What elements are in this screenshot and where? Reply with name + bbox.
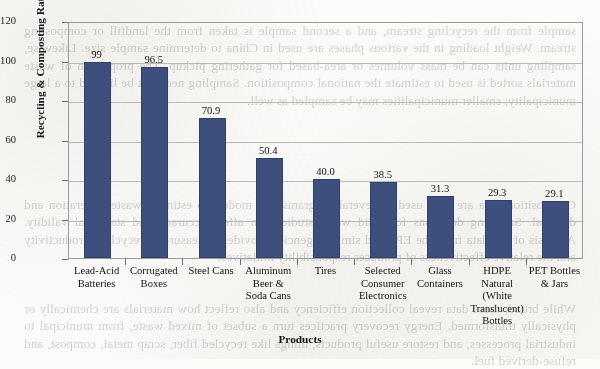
y-axis-tick-label: 80 (0, 94, 16, 105)
bar-value-label: 31.3 (413, 183, 467, 194)
y-axis-tick-mark (62, 22, 68, 23)
x-axis-category-label-line: Soda Cans (229, 290, 307, 303)
x-axis-category-label-line: PET Bottles (515, 265, 593, 278)
x-axis-category-label-line: Beer & (229, 278, 307, 291)
y-axis-tick-mark (62, 62, 68, 63)
x-axis-category-label-line: Electronics (344, 290, 422, 303)
y-axis-title: Recycling & Composting Rate (Percent) (34, 0, 46, 168)
bar (542, 201, 569, 258)
x-axis-category-label: PET Bottles& Jars (515, 265, 593, 290)
y-axis-tick-mark (62, 259, 68, 260)
y-axis-tick-label: 100 (0, 55, 16, 66)
y-axis-tick-mark (62, 141, 68, 142)
x-axis-category-label-line: & Jars (515, 278, 593, 291)
x-axis-category-label-line: (White (458, 290, 536, 303)
x-axis-category-label-line: Boxes (115, 278, 193, 291)
bar-value-label: 29.3 (470, 187, 524, 198)
bar (256, 158, 283, 258)
bar-value-label: 38.5 (356, 169, 410, 180)
y-axis-tick-label: 60 (0, 134, 16, 145)
bar (313, 179, 340, 258)
x-axis-title: Products (0, 333, 600, 345)
x-axis-category-label-line: Bottles (458, 315, 536, 328)
bar (485, 200, 512, 258)
bar-value-label: 99 (70, 49, 124, 60)
bar-value-label: 70.9 (184, 105, 238, 116)
y-axis-tick-label: 120 (0, 15, 16, 26)
bar (199, 118, 226, 258)
bar-value-label: 40.0 (299, 166, 353, 177)
x-axis-category-label-line: Translucent) (458, 303, 536, 316)
y-axis-tick-mark (62, 101, 68, 102)
bar (427, 196, 454, 258)
y-axis-tick-mark (62, 220, 68, 221)
bar (370, 182, 397, 258)
bar-value-label: 29.1 (527, 188, 581, 199)
bar-value-label: 50.4 (241, 145, 295, 156)
y-axis-tick-mark (62, 180, 68, 181)
y-axis-tick-label: 0 (0, 252, 16, 263)
y-axis-tick-label: 20 (0, 213, 16, 224)
bar-value-label: 96.5 (127, 54, 181, 65)
bar (141, 67, 168, 258)
bar (84, 62, 111, 258)
y-axis-tick-label: 40 (0, 173, 16, 184)
